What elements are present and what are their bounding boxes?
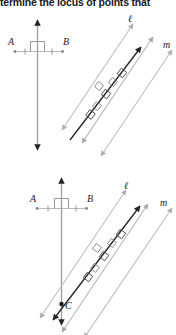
label-point-b-2: B: [87, 193, 93, 204]
right-angle-marks-group-2: [83, 229, 126, 282]
label-line-l-2: ℓ: [124, 180, 128, 191]
point-c-dot: [59, 302, 63, 306]
label-line-m-2: m: [160, 197, 167, 208]
point-b-dot-2: [85, 207, 88, 210]
right-angle-mark-midline-alt-2: [93, 244, 102, 253]
figure-2: ℓ m C A B: [0, 0, 176, 335]
right-angle-marks-group-2b: [91, 239, 117, 273]
parallel-line-l-2: [40, 190, 126, 318]
label-point-c: C: [65, 300, 72, 311]
midline-locus-2: [62, 204, 148, 332]
parallel-line-m-2: [84, 208, 172, 335]
point-a-dot-2: [36, 207, 39, 210]
label-point-a-2: A: [29, 193, 37, 204]
worksheet-figure-panel: termine the locus of points that: [0, 0, 176, 335]
